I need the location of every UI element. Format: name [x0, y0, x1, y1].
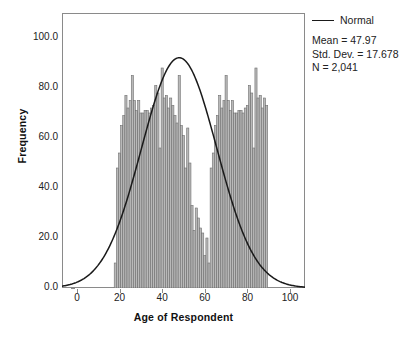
- legend-line-swatch-icon: [312, 20, 334, 21]
- y-axis-ticks: 0.020.040.060.080.0100.0: [14, 0, 58, 337]
- histogram-bar: [189, 163, 191, 288]
- x-tick-label: 100: [275, 292, 305, 303]
- histogram-bar: [242, 113, 244, 288]
- legend-label-normal: Normal: [340, 14, 374, 26]
- histogram-bar: [202, 233, 204, 288]
- x-tick-mark: [77, 289, 78, 293]
- histogram-bar: [244, 108, 246, 288]
- histogram-bar: [261, 108, 263, 288]
- histogram-bar: [195, 208, 197, 288]
- y-tick-label: 60.0: [18, 131, 58, 142]
- x-axis-title: Age of Respondent: [62, 311, 305, 323]
- histogram-bar: [140, 113, 142, 288]
- histogram-bar: [234, 113, 236, 288]
- histogram-bar: [138, 101, 140, 289]
- histogram-bar: [191, 206, 193, 289]
- x-tick-mark: [247, 289, 248, 293]
- histogram-bar: [170, 98, 172, 288]
- histogram-bar: [212, 153, 214, 288]
- y-tick-mark: [71, 288, 75, 289]
- histogram-bar: [257, 98, 259, 288]
- histogram-bar: [236, 113, 238, 288]
- legend-statistics: Mean = 47.97 Std. Dev. = 17.678 N = 2,04…: [312, 34, 416, 75]
- histogram-bar: [223, 101, 225, 289]
- histogram-bar: [172, 106, 174, 289]
- x-tick-mark: [162, 289, 163, 293]
- y-tick-label: 100.0: [18, 31, 58, 42]
- histogram-bar: [253, 148, 255, 288]
- histogram-bar: [123, 116, 125, 289]
- histogram-bar: [206, 238, 208, 288]
- histogram-bar: [204, 256, 206, 289]
- histogram-bar: [114, 263, 116, 288]
- histogram-bar: [208, 263, 210, 288]
- histogram-bar: [165, 96, 167, 289]
- histogram-bar: [263, 98, 265, 288]
- x-tick-mark: [120, 289, 121, 293]
- stat-mean: Mean = 47.97: [312, 34, 416, 48]
- histogram-bar: [133, 101, 135, 289]
- histogram-bar: [231, 101, 233, 289]
- y-tick-label: 40.0: [18, 181, 58, 192]
- histogram-bar: [129, 101, 131, 289]
- histogram-bar: [221, 108, 223, 288]
- histogram-bars: [114, 68, 267, 288]
- histogram-bar: [146, 111, 148, 289]
- histogram-bar: [197, 218, 199, 288]
- histogram-bar: [240, 111, 242, 289]
- x-tick-mark: [290, 289, 291, 293]
- y-tick-label: 0.0: [18, 281, 58, 292]
- histogram-bar: [180, 126, 182, 289]
- histogram-bar: [199, 228, 201, 288]
- legend: Normal Mean = 47.97 Std. Dev. = 17.678 N…: [312, 13, 416, 75]
- histogram-bar: [155, 86, 157, 289]
- histogram-bar: [163, 98, 165, 288]
- x-tick-label: 80: [232, 292, 262, 303]
- histogram-bar: [161, 68, 163, 288]
- histogram-bar: [266, 106, 268, 289]
- histogram-bar: [214, 126, 216, 289]
- x-tick-label: 20: [105, 292, 135, 303]
- histogram-bar: [157, 93, 159, 288]
- histogram-bar: [187, 128, 189, 288]
- stat-std-dev: Std. Dev. = 17.678: [312, 48, 416, 62]
- legend-entry-normal: Normal: [312, 13, 416, 27]
- histogram-bar: [259, 96, 261, 289]
- x-tick-label: 60: [190, 292, 220, 303]
- histogram-bar: [148, 113, 150, 288]
- stat-n: N = 2,041: [312, 61, 416, 75]
- y-tick-label: 20.0: [18, 231, 58, 242]
- histogram-bar: [174, 116, 176, 289]
- histogram-bar: [210, 168, 212, 288]
- x-tick-mark: [205, 289, 206, 293]
- y-tick-label: 80.0: [18, 81, 58, 92]
- histogram-bar: [178, 76, 180, 289]
- histogram-bar: [249, 86, 251, 289]
- histogram-bar: [168, 108, 170, 288]
- histogram-bar: [193, 231, 195, 289]
- histogram-bar: [182, 136, 184, 289]
- histogram-bar: [153, 106, 155, 289]
- x-tick-label: 0: [62, 292, 92, 303]
- histogram-bar: [136, 111, 138, 289]
- histogram-bar: [238, 111, 240, 289]
- histogram-bar: [217, 116, 219, 289]
- x-tick-label: 40: [147, 292, 177, 303]
- histogram-bar: [159, 148, 161, 288]
- plot-canvas: [62, 13, 305, 288]
- histogram-bar: [185, 168, 187, 288]
- histogram-bar: [176, 123, 178, 288]
- histogram-figure: Frequency 0.020.040.060.080.0100.0 02040…: [0, 0, 416, 337]
- histogram-bar: [251, 93, 253, 288]
- histogram-bar: [125, 96, 127, 289]
- histogram-bar: [255, 68, 257, 288]
- histogram-bar: [150, 108, 152, 288]
- histogram-bar: [219, 96, 221, 289]
- histogram-bar: [246, 106, 248, 289]
- histogram-bar: [121, 126, 123, 289]
